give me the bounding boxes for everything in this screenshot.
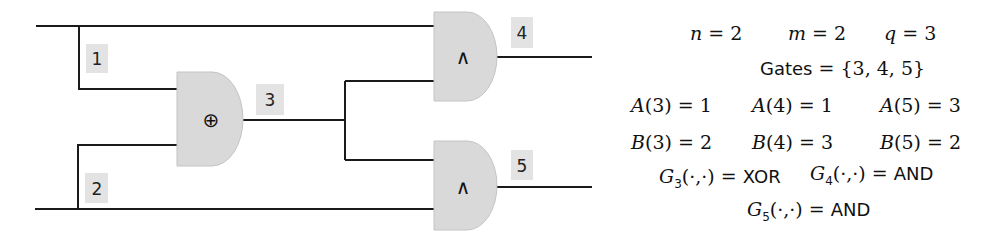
param-q: q = 3 xyxy=(884,22,936,44)
param-n: n = 2 xyxy=(690,22,742,44)
and-symbol-icon: ∧ xyxy=(456,45,471,69)
a-4: A(4) = 1 xyxy=(752,94,833,116)
xor-symbol-icon: ⊕ xyxy=(203,108,220,132)
circuit-diagram: ⊕ ∧ ∧ 1 2 3 4 5 xyxy=(0,0,620,243)
a-3: A(3) = 1 xyxy=(631,94,712,116)
gate-4-and: ∧ xyxy=(434,12,497,101)
and-symbol-icon: ∧ xyxy=(456,175,471,199)
label-3-text: 3 xyxy=(265,90,276,110)
a-5: A(5) = 3 xyxy=(880,94,961,116)
g-4: G4(·,·) = AND xyxy=(810,162,933,188)
label-3: 3 xyxy=(256,84,284,115)
label-1-text: 1 xyxy=(92,49,103,69)
b-3: B(3) = 2 xyxy=(631,131,712,153)
gate-5-and: ∧ xyxy=(434,141,497,230)
g-5: G5(·,·) = AND xyxy=(747,198,870,224)
b-5: B(5) = 2 xyxy=(880,131,961,153)
label-2: 2 xyxy=(85,173,108,203)
label-2-text: 2 xyxy=(92,179,103,199)
param-m: m = 2 xyxy=(788,22,846,44)
label-4-text: 4 xyxy=(517,23,528,43)
gates-set: Gates = {3, 4, 5} xyxy=(760,57,925,79)
b-4: B(4) = 3 xyxy=(752,131,833,153)
label-5: 5 xyxy=(511,150,533,180)
label-5-text: 5 xyxy=(517,156,528,176)
g-3: G3(·,·) = XOR xyxy=(659,165,781,191)
label-1: 1 xyxy=(86,44,108,73)
label-4: 4 xyxy=(511,17,533,48)
gate-3-xor: ⊕ xyxy=(177,72,243,166)
